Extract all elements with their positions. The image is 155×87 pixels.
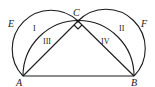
- label-f: F: [140, 18, 148, 29]
- label-c: C: [73, 7, 80, 18]
- label-b: B: [131, 77, 137, 87]
- label-a: A: [15, 77, 23, 87]
- segment-ac: [23, 21, 78, 76]
- region-iii: III: [43, 37, 51, 46]
- segment-bc: [78, 21, 134, 76]
- lune-diagram: A B C E F I II III IV: [0, 0, 155, 87]
- arc-bc-outer: [78, 9, 145, 76]
- right-angle-mark: [74, 25, 82, 29]
- label-e: E: [7, 18, 14, 29]
- point-c-dot: [76, 19, 79, 22]
- region-i: I: [33, 24, 36, 33]
- region-iv: IV: [101, 37, 110, 46]
- region-ii: II: [119, 24, 125, 33]
